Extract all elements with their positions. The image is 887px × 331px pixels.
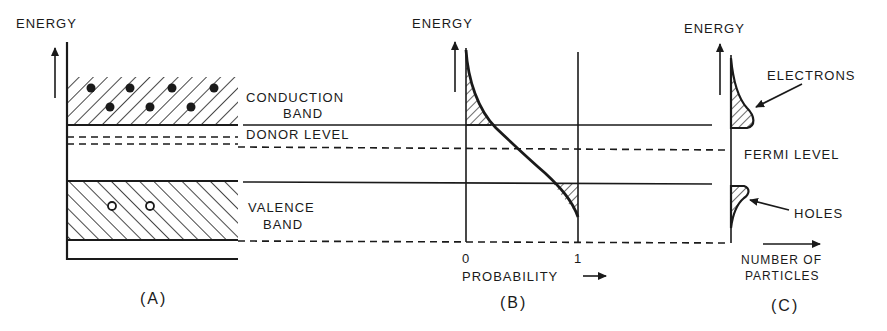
electron-dot-icon	[106, 103, 115, 112]
valence-band-label-line1: VALENCE	[248, 200, 315, 215]
valence-band-label-line2: BAND	[263, 217, 303, 232]
holes-distribution	[731, 186, 749, 228]
hole-circle-icon	[108, 202, 116, 210]
conduction-band-label-line2: BAND	[283, 106, 323, 121]
electron-dot-icon	[87, 84, 96, 93]
reference-lines	[238, 125, 730, 243]
hole-circle-icon	[146, 202, 154, 210]
electron-dot-icon	[168, 84, 177, 93]
electrons-pointer-arrow-icon	[756, 84, 802, 107]
probability-tick-0: 0	[462, 251, 470, 266]
electron-dot-icon	[210, 84, 219, 93]
electron-dot-icon	[126, 84, 135, 93]
panel-a-caption: (A)	[140, 290, 167, 307]
panel-c-caption: (C)	[771, 297, 799, 314]
valence-edge-reference-line	[243, 182, 712, 184]
electrons-label: ELECTRONS	[767, 68, 855, 83]
electron-dot-icon	[146, 103, 155, 112]
electrons-distribution	[731, 58, 753, 128]
panel-b-energy-label: ENERGY	[412, 16, 473, 31]
holes-pointer-arrow-icon	[750, 200, 789, 210]
panel-a-energy-label: ENERGY	[16, 16, 77, 31]
panel-a: ENERGY CONDUCTION BAND DO	[16, 16, 349, 307]
valence-bottom-reference-line	[238, 241, 730, 243]
donor-level-label: DONOR LEVEL	[246, 127, 349, 142]
fermi-level-reference-line	[238, 147, 726, 150]
panel-c: ENERGY ELECTRONS FERMI LEVEL HOLES NUMBE…	[684, 21, 855, 314]
band-diagram-figure: ENERGY CONDUCTION BAND DO	[0, 0, 887, 331]
panel-c-energy-label: ENERGY	[684, 21, 745, 36]
panel-b-caption: (B)	[500, 294, 527, 311]
holes-label: HOLES	[794, 206, 843, 221]
conduction-band-label-line1: CONDUCTION	[246, 90, 344, 105]
probability-axis-label: PROBABILITY	[462, 269, 558, 284]
particles-axis-label-line2: PARTICLES	[745, 269, 820, 283]
panel-b: ENERGY 0 1 PROBABILITY (B)	[412, 16, 606, 311]
fermi-level-label: FERMI LEVEL	[744, 147, 840, 162]
probability-tick-1: 1	[574, 251, 582, 266]
valence-band-region	[67, 181, 238, 240]
electron-dot-icon	[187, 103, 196, 112]
particles-axis-label-line1: NUMBER OF	[741, 253, 822, 267]
